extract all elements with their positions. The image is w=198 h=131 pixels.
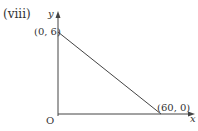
y-axis-label: y [48, 8, 54, 19]
y-arrow-icon [56, 11, 61, 18]
origin-label: O [46, 115, 54, 126]
point-label-x-intercept: (60, 0) [157, 102, 190, 113]
x-axis-label: x [190, 113, 196, 124]
point-label-y-intercept: (0, 6) [34, 26, 61, 37]
line-segment [58, 32, 161, 114]
figure-label: (viii) [3, 7, 31, 21]
